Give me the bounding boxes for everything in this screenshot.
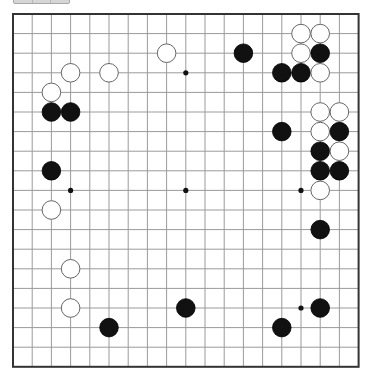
black-stone[interactable] xyxy=(292,64,311,83)
black-stone[interactable] xyxy=(330,162,349,181)
white-stone[interactable] xyxy=(42,83,61,102)
white-stone[interactable] xyxy=(157,44,176,63)
black-stone[interactable] xyxy=(273,318,292,337)
white-stone[interactable] xyxy=(292,24,311,43)
white-stone[interactable] xyxy=(311,103,330,122)
stones-layer[interactable] xyxy=(42,24,349,337)
black-stone[interactable] xyxy=(273,122,292,141)
white-stone[interactable] xyxy=(330,103,349,122)
white-stone[interactable] xyxy=(330,142,349,161)
black-stone[interactable] xyxy=(311,220,330,239)
white-stone[interactable] xyxy=(311,24,330,43)
hoshi-point xyxy=(183,188,188,193)
black-stone[interactable] xyxy=(311,44,330,63)
black-stone[interactable] xyxy=(311,299,330,318)
black-stone[interactable] xyxy=(42,162,61,181)
black-stone[interactable] xyxy=(330,122,349,141)
black-stone[interactable] xyxy=(234,44,253,63)
white-stone[interactable] xyxy=(61,64,80,83)
black-stone[interactable] xyxy=(177,299,196,318)
hoshi-point xyxy=(298,305,303,310)
black-stone[interactable] xyxy=(273,64,292,83)
go-game-window xyxy=(0,0,370,378)
white-stone[interactable] xyxy=(61,260,80,279)
hoshi-point xyxy=(183,70,188,75)
black-stone[interactable] xyxy=(42,103,61,122)
hoshi-point xyxy=(298,188,303,193)
white-stone[interactable] xyxy=(311,64,330,83)
black-stone[interactable] xyxy=(311,142,330,161)
white-stone[interactable] xyxy=(311,181,330,200)
go-board[interactable] xyxy=(0,0,370,378)
black-stone[interactable] xyxy=(61,103,80,122)
white-stone[interactable] xyxy=(311,122,330,141)
white-stone[interactable] xyxy=(42,201,61,220)
white-stone[interactable] xyxy=(61,299,80,318)
hoshi-point xyxy=(68,188,73,193)
white-stone[interactable] xyxy=(100,64,119,83)
white-stone[interactable] xyxy=(292,44,311,63)
black-stone[interactable] xyxy=(100,318,119,337)
black-stone[interactable] xyxy=(311,162,330,181)
